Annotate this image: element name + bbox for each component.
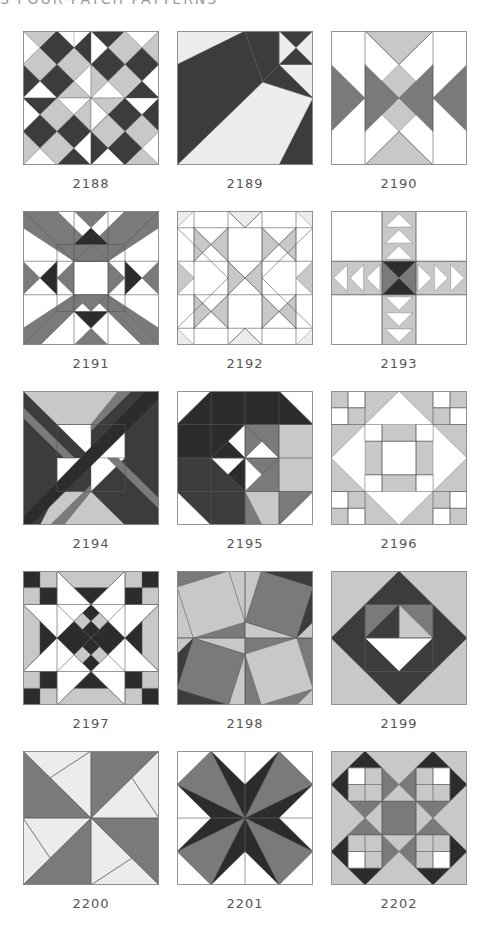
quilt-pattern-graphic (331, 391, 467, 525)
quilt-block-2198 (177, 571, 313, 705)
pattern-number-label: 2191 (23, 356, 159, 371)
quilt-block-2197 (23, 571, 159, 705)
quilt-block-2190 (331, 31, 467, 165)
quilt-block-2189 (177, 31, 313, 165)
quilt-block-2192 (177, 211, 313, 345)
quilt-pattern-graphic (331, 31, 467, 165)
pattern-number-label: 2197 (23, 716, 159, 731)
quilt-pattern-graphic (23, 211, 159, 345)
quilt-pattern-graphic (23, 751, 159, 885)
quilt-block-2188 (23, 31, 159, 165)
quilt-pattern-graphic (177, 211, 313, 345)
quilt-pattern-graphic (331, 751, 467, 885)
pattern-number-label: 2189 (177, 176, 313, 191)
quilt-block-2195 (177, 391, 313, 525)
quilt-pattern-graphic (331, 571, 467, 705)
pattern-number-label: 2201 (177, 896, 313, 911)
quilt-block-2194 (23, 391, 159, 525)
pattern-number-label: 2200 (23, 896, 159, 911)
pattern-number-label: 2195 (177, 536, 313, 551)
quilt-pattern-graphic (177, 391, 313, 525)
pattern-number-label: 2188 (23, 176, 159, 191)
pattern-number-label: 2198 (177, 716, 313, 731)
quilt-block-2202 (331, 751, 467, 885)
quilt-block-2193 (331, 211, 467, 345)
pattern-number-label: 2193 (331, 356, 467, 371)
pattern-number-label: 2199 (331, 716, 467, 731)
quilt-block-2199 (331, 571, 467, 705)
quilt-pattern-graphic (177, 571, 313, 705)
pattern-number-label: 2190 (331, 176, 467, 191)
quilt-pattern-graphic (23, 571, 159, 705)
quilt-pattern-graphic (23, 31, 159, 165)
pattern-number-label: 2202 (331, 896, 467, 911)
pattern-number-label: 2192 (177, 356, 313, 371)
quilt-block-2196 (331, 391, 467, 525)
pattern-number-label: 2194 (23, 536, 159, 551)
quilt-block-2191 (23, 211, 159, 345)
quilt-pattern-graphic (331, 211, 467, 345)
quilt-block-2200 (23, 751, 159, 885)
quilt-pattern-graphic (177, 31, 313, 165)
quilt-pattern-graphic (177, 751, 313, 885)
quilt-block-2201 (177, 751, 313, 885)
quilt-pattern-graphic (23, 391, 159, 525)
page-header-title: S FOUR-PATCH PATTERNS (0, 0, 218, 5)
pattern-number-label: 2196 (331, 536, 467, 551)
